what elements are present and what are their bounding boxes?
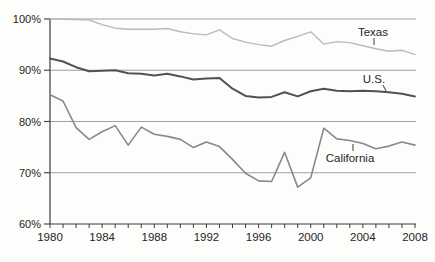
x-tick-label-1980: 1980 [37,231,63,243]
x-tick-label-1992: 1992 [194,231,220,243]
x-tick-label-1996: 1996 [246,231,272,243]
y-tick-label-90: 90% [19,64,41,76]
series-line-california [50,95,415,187]
series-label-texas: Texas [358,26,388,38]
x-tick-label-1984: 1984 [89,231,115,243]
series-label-u-s: U.S. [363,73,385,85]
line-chart: 60%70%80%90%100%198019841988199219962000… [0,0,435,262]
y-tick-label-60: 60% [19,218,41,230]
figure: 60%70%80%90%100%198019841988199219962000… [0,0,435,262]
x-tick-label-2004: 2004 [350,231,376,243]
y-tick-label-100: 100% [13,13,41,25]
series-label-california: California [326,152,375,164]
y-tick-label-70: 70% [19,167,41,179]
x-tick-label-2000: 2000 [298,231,324,243]
series-line-u-s [50,59,415,98]
x-tick-label-1988: 1988 [141,231,167,243]
y-tick-label-80: 80% [19,116,41,128]
x-tick-label-2008: 2008 [402,231,428,243]
label-leader-u-s [383,85,386,91]
